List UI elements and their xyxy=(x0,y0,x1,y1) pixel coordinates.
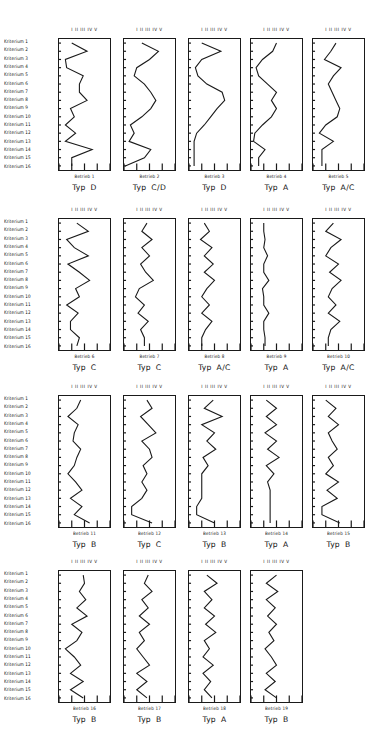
criterion-label: Kriterium 4 xyxy=(4,245,56,250)
type-value: B xyxy=(91,715,97,724)
profile-plot[interactable] xyxy=(188,570,241,703)
panel-caption: Betrieb 13 xyxy=(188,532,241,537)
criterion-label: Kriterium 11 xyxy=(4,480,56,485)
criterion-label: Kriterium 12 xyxy=(4,663,56,668)
profile-plot[interactable] xyxy=(123,38,176,171)
criterion-label: Kriterium 6 xyxy=(4,81,56,86)
criterion-label: Kriterium 13 xyxy=(4,671,56,676)
scale-header: I II III IV V xyxy=(123,208,176,213)
scale-header: I II III IV V xyxy=(188,28,241,33)
criterion-label: Kriterium 2 xyxy=(4,580,56,585)
profile-plot[interactable] xyxy=(188,38,241,171)
type-word: Typ xyxy=(265,183,278,192)
panel-caption: Betrieb 8 xyxy=(188,355,241,360)
type-value: A/C xyxy=(341,363,355,372)
panel-caption: Betrieb 9 xyxy=(250,355,303,360)
criterion-label: Kriterium 11 xyxy=(4,123,56,128)
profile-plot[interactable] xyxy=(58,395,111,528)
scale-header: I II III IV V xyxy=(250,385,303,390)
type-value: B xyxy=(91,540,97,549)
panel-type-label: TypA xyxy=(250,541,303,549)
type-word: Typ xyxy=(73,540,86,549)
criterion-label: Kriterium 1 xyxy=(4,220,56,225)
type-word: Typ xyxy=(322,183,335,192)
profile-plot[interactable] xyxy=(123,218,176,351)
criterion-label: Kriterium 6 xyxy=(4,613,56,618)
panel-type-label: TypA/C xyxy=(312,364,365,372)
profile-plot[interactable] xyxy=(312,38,365,171)
criterion-label: Kriterium 5 xyxy=(4,605,56,610)
type-value: A xyxy=(283,183,289,192)
criterion-label: Kriterium 3 xyxy=(4,236,56,241)
scale-header: I II III IV V xyxy=(58,208,111,213)
criterion-label: Kriterium 16 xyxy=(4,164,56,169)
type-value: A xyxy=(221,715,227,724)
type-value: C xyxy=(156,540,162,549)
type-word: Typ xyxy=(265,363,278,372)
profile-plot[interactable] xyxy=(250,395,303,528)
type-value: D xyxy=(221,183,227,192)
profile-plot[interactable] xyxy=(123,570,176,703)
profile-plot[interactable] xyxy=(312,395,365,528)
criterion-label: Kriterium 13 xyxy=(4,139,56,144)
profile-plot[interactable] xyxy=(250,570,303,703)
profile-plot[interactable] xyxy=(250,38,303,171)
criterion-label: Kriterium 9 xyxy=(4,638,56,643)
type-word: Typ xyxy=(322,363,335,372)
criterion-label: Kriterium 7 xyxy=(4,622,56,627)
profile-plot[interactable] xyxy=(58,570,111,703)
panel-caption: Betrieb 11 xyxy=(58,532,111,537)
scale-header: I II III IV V xyxy=(188,208,241,213)
scale-header: I II III IV V xyxy=(250,208,303,213)
criterion-label: Kriterium 10 xyxy=(4,471,56,476)
criterion-label: Kriterium 1 xyxy=(4,397,56,402)
criterion-label: Kriterium 8 xyxy=(4,455,56,460)
panel-type-label: TypA/C xyxy=(188,364,241,372)
criterion-label: Kriterium 14 xyxy=(4,680,56,685)
type-word: Typ xyxy=(72,363,85,372)
panel-type-label: TypB xyxy=(123,716,176,724)
criterion-label: Kriterium 8 xyxy=(4,630,56,635)
type-word: Typ xyxy=(202,183,215,192)
panel-caption: Betrieb 2 xyxy=(123,175,176,180)
criterion-label: Kriterium 4 xyxy=(4,65,56,70)
type-word: Typ xyxy=(203,715,216,724)
type-value: A/C xyxy=(217,363,231,372)
panel-caption: Betrieb 18 xyxy=(188,707,241,712)
criterion-label: Kriterium 1 xyxy=(4,572,56,577)
panel-caption: Betrieb 5 xyxy=(312,175,365,180)
panel-type-label: TypC xyxy=(123,364,176,372)
criterion-label: Kriterium 3 xyxy=(4,588,56,593)
figure-page: Kriterium 1Kriterium 2Kriterium 3Kriteri… xyxy=(0,0,379,735)
profile-plot[interactable] xyxy=(188,218,241,351)
profile-plot[interactable] xyxy=(58,38,111,171)
profile-plot[interactable] xyxy=(58,218,111,351)
type-word: Typ xyxy=(72,183,85,192)
criterion-label: Kriterium 8 xyxy=(4,278,56,283)
panel-type-label: TypA/C xyxy=(312,184,365,192)
type-word: Typ xyxy=(327,540,340,549)
criterion-label: Kriterium 13 xyxy=(4,319,56,324)
panel-type-label: TypD xyxy=(58,184,111,192)
type-word: Typ xyxy=(133,183,146,192)
criterion-label: Kriterium 12 xyxy=(4,488,56,493)
scale-header: I II III IV V xyxy=(188,385,241,390)
panel-type-label: TypB xyxy=(58,716,111,724)
type-value: C xyxy=(156,363,162,372)
criterion-label: Kriterium 6 xyxy=(4,438,56,443)
panel-type-label: TypC/D xyxy=(123,184,176,192)
type-word: Typ xyxy=(265,540,278,549)
panel-caption: Betrieb 17 xyxy=(123,707,176,712)
type-word: Typ xyxy=(198,363,211,372)
profile-plot[interactable] xyxy=(250,218,303,351)
profile-plot[interactable] xyxy=(188,395,241,528)
criterion-label: Kriterium 13 xyxy=(4,496,56,501)
scale-header: I II III IV V xyxy=(312,28,365,33)
profile-plot[interactable] xyxy=(312,218,365,351)
criterion-label: Kriterium 3 xyxy=(4,56,56,61)
scale-header: I II III IV V xyxy=(250,28,303,33)
profile-plot[interactable] xyxy=(123,395,176,528)
type-word: Typ xyxy=(203,540,216,549)
panel-type-label: TypB xyxy=(58,541,111,549)
criterion-label: Kriterium 14 xyxy=(4,505,56,510)
